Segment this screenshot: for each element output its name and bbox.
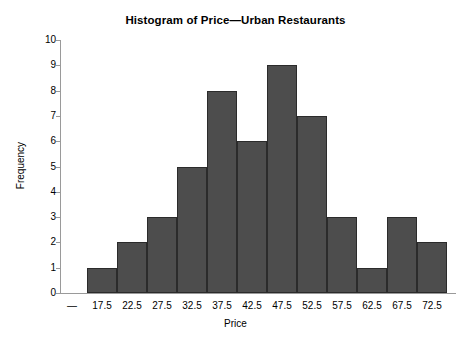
y-tick-mark [56, 141, 60, 142]
histogram-bar [117, 242, 147, 293]
y-tick-label-wrap: 3 [10, 212, 56, 222]
y-tick-label: 7 [16, 111, 56, 121]
histogram-bar [147, 217, 177, 293]
y-tick-label-wrap: 10 [10, 35, 56, 45]
histogram-bar [357, 268, 387, 293]
y-tick-label-wrap: 7 [10, 111, 56, 121]
y-tick-label: 10 [16, 35, 56, 45]
histogram-bar [87, 268, 117, 293]
y-tick-label-wrap: 8 [10, 86, 56, 96]
histogram-chart: Histogram of Price—Urban Restaurants 109… [0, 0, 471, 338]
y-tick-mark [56, 65, 60, 66]
x-axis-title: Price [0, 318, 471, 329]
histogram-bar [297, 116, 327, 293]
y-tick-label: 2 [16, 237, 56, 247]
y-axis-title: Frequency [15, 121, 26, 211]
y-tick-mark [56, 40, 60, 41]
y-tick-mark [56, 192, 60, 193]
histogram-bar [237, 141, 267, 293]
y-tick-mark [56, 167, 60, 168]
y-tick-mark [56, 91, 60, 92]
y-tick-mark [56, 268, 60, 269]
histogram-bar [327, 217, 357, 293]
y-axis-line [60, 40, 61, 294]
y-tick-label-wrap: 9 [10, 60, 56, 70]
histogram-bar [267, 65, 297, 293]
histogram-bar [207, 91, 237, 293]
y-tick-label-wrap: 1 [10, 263, 56, 273]
y-tick-mark [56, 116, 60, 117]
y-tick-label: 3 [16, 212, 56, 222]
y-tick-label-wrap: 0 [10, 288, 56, 298]
y-tick-mark [56, 217, 60, 218]
histogram-bar [387, 217, 417, 293]
y-tick-label: 9 [16, 60, 56, 70]
histogram-bar [417, 242, 447, 293]
histogram-bar [177, 167, 207, 294]
y-tick-label: 0 [16, 288, 56, 298]
x-tick-label: 72.5 [412, 300, 452, 312]
plot-area: 109876543210 Frequency — 17.522.527.532.… [0, 0, 471, 338]
y-tick-mark [56, 242, 60, 243]
y-tick-label-wrap: 2 [10, 237, 56, 247]
x-axis-line [60, 293, 456, 294]
y-tick-mark [56, 293, 60, 294]
y-tick-label: 8 [16, 86, 56, 96]
y-tick-label: 1 [16, 263, 56, 273]
